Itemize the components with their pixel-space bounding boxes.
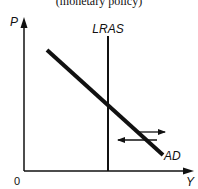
- ad-label: AD: [163, 149, 181, 163]
- origin-label: 0: [14, 175, 20, 187]
- lras-label: LRAS: [92, 22, 123, 36]
- ad-curve: [47, 50, 163, 155]
- ad-lras-diagram: (monetary policy) P Y 0 LRAS AD: [0, 0, 198, 189]
- x-axis-label: Y: [186, 175, 195, 189]
- x-axis-arrowhead: [183, 168, 194, 175]
- y-axis-label: P: [10, 15, 18, 29]
- diagram-caption: (monetary policy): [56, 0, 142, 8]
- y-axis-arrowhead: [21, 17, 28, 28]
